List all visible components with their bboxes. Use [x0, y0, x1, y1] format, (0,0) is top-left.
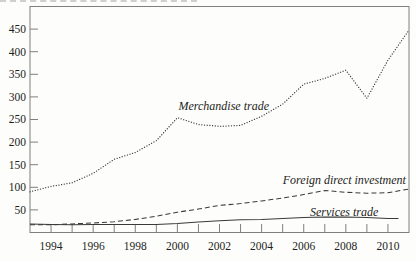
- trade-line-chart: 5010015020025030035040045019941996199820…: [0, 0, 416, 261]
- scan-artifact-line: [0, 0, 197, 2]
- x-tick-label: 2004: [250, 240, 273, 252]
- x-tick-label: 1994: [40, 240, 63, 252]
- series-label-foreign-direct-investment: Foreign direct investment: [282, 173, 407, 187]
- x-tick-label: 2002: [208, 240, 231, 252]
- x-tick-label: 2000: [166, 240, 189, 252]
- x-tick-label: 1996: [82, 240, 105, 252]
- y-tick-label: 300: [9, 91, 27, 103]
- y-tick-label: 400: [9, 46, 27, 58]
- y-tick-label: 50: [15, 204, 27, 216]
- series-label-services-trade: Services trade: [310, 205, 379, 219]
- y-tick-label: 100: [9, 181, 27, 193]
- x-tick-label: 2008: [334, 240, 357, 252]
- x-tick-label: 1998: [124, 240, 147, 252]
- x-tick-label: 2010: [376, 240, 399, 252]
- y-tick-label: 450: [9, 23, 27, 35]
- trade-line-chart-figure: 5010015020025030035040045019941996199820…: [0, 0, 416, 261]
- x-tick-label: 2006: [292, 240, 315, 252]
- y-tick-label: 200: [9, 136, 27, 148]
- series-label-merchandise-trade: Merchandise trade: [177, 99, 269, 113]
- y-tick-label: 350: [9, 68, 27, 80]
- y-tick-label: 250: [9, 113, 27, 125]
- y-tick-label: 150: [9, 159, 27, 171]
- plot-frame: [30, 7, 409, 233]
